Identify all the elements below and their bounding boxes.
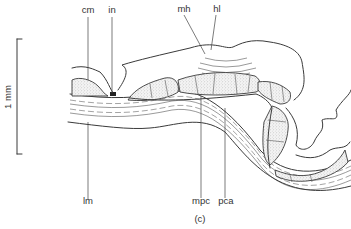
label-mh: mh [177,3,190,14]
panel-label: (c) [194,213,205,224]
label-mpc: mpc [192,195,210,206]
label-hl: hl [213,3,220,14]
chambers [128,73,348,182]
labels: cm in mh hl lm mpc pca (c) [82,3,235,224]
label-in: in [108,4,115,15]
anatomical-section-diagram: 1 mm [0,0,351,229]
right-convolutions [286,90,351,158]
scale-bar: 1 mm [2,39,22,154]
left-tissue [72,67,116,96]
label-lm: lm [83,195,93,206]
scale-bar-label: 1 mm [2,85,13,109]
label-pca: pca [218,195,234,206]
label-cm: cm [82,4,95,15]
